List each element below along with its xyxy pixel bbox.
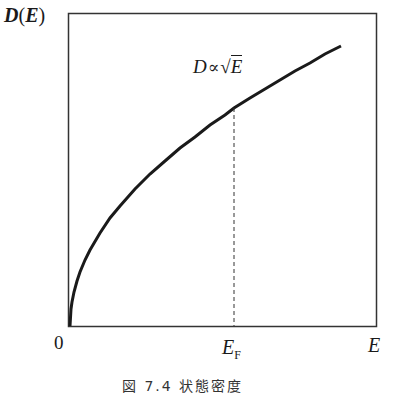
formula-annotation: D∝√E	[193, 56, 242, 78]
origin-label: 0	[54, 332, 64, 354]
y-axis-label: D(E)	[4, 4, 45, 27]
dos-curve	[70, 46, 341, 326]
fermi-energy-label: EF	[222, 336, 241, 363]
figure-caption: 図 7.4 状態密度	[122, 375, 243, 395]
x-axis-label: E	[368, 334, 380, 357]
